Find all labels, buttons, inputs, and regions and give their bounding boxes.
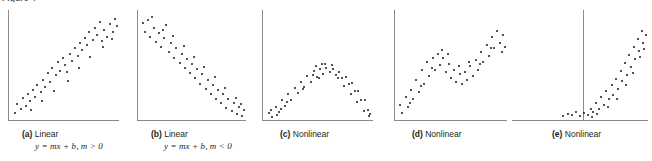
data-point	[225, 107, 227, 109]
scatter-plot-c	[254, 10, 374, 122]
data-point	[325, 67, 327, 69]
data-point	[286, 101, 288, 103]
caption-c: (c) Nonlinear	[280, 129, 329, 141]
scatter-plot-a	[0, 10, 120, 122]
data-point	[318, 77, 320, 79]
data-point	[360, 99, 362, 101]
caption-equation-b: y = mx + b, m < 0	[151, 141, 232, 153]
data-point	[111, 38, 113, 40]
data-point	[224, 87, 226, 89]
data-point	[502, 34, 504, 36]
data-point	[173, 57, 175, 59]
data-point	[426, 61, 428, 63]
caption-tag-b: (b)	[151, 129, 162, 139]
data-point	[168, 51, 170, 53]
data-point	[62, 57, 64, 59]
data-point	[415, 79, 417, 81]
data-point	[624, 62, 626, 64]
data-point	[448, 63, 450, 65]
data-point	[315, 65, 317, 67]
data-point	[42, 79, 44, 81]
data-point	[96, 34, 98, 36]
data-point	[496, 30, 498, 32]
data-point	[595, 102, 597, 104]
caption-title-c: Nonlinear	[293, 129, 329, 139]
caption-equation-a: y = mx + b, m > 0	[22, 141, 103, 153]
data-point	[579, 115, 581, 117]
data-point	[475, 59, 477, 61]
data-point	[348, 83, 350, 85]
data-point	[86, 44, 88, 46]
data-point	[217, 89, 219, 91]
panel-d: (d) Nonlinear	[386, 10, 508, 161]
data-point	[116, 25, 118, 27]
data-point	[147, 19, 149, 21]
data-point	[231, 110, 233, 112]
data-point	[222, 93, 224, 95]
data-point	[189, 72, 191, 74]
data-point	[238, 106, 240, 108]
caption-tag-a: (a)	[22, 129, 32, 139]
data-point	[205, 88, 207, 90]
data-point	[458, 65, 460, 67]
data-point	[447, 53, 449, 55]
data-point	[240, 103, 242, 105]
caption-a: (a) Linear y = mx + b, m > 0	[22, 129, 103, 152]
data-point	[482, 61, 484, 63]
data-point	[67, 80, 69, 82]
data-point	[642, 42, 644, 44]
data-point	[441, 49, 443, 51]
data-point	[66, 71, 68, 73]
data-point	[605, 90, 607, 92]
data-point	[638, 50, 640, 52]
data-point	[77, 55, 79, 57]
data-point	[172, 35, 174, 37]
data-point	[32, 89, 34, 91]
data-point	[322, 73, 324, 75]
data-point	[201, 73, 203, 75]
figure-container: Figure 4 (a) Linear y = mx + b, m > 0 (b…	[0, 0, 652, 161]
data-point	[607, 106, 609, 108]
panel-e: (e) Nonlinear	[512, 10, 652, 161]
y-axis-d	[394, 10, 395, 120]
data-point	[59, 70, 61, 72]
data-point	[335, 74, 337, 76]
data-point	[89, 56, 91, 58]
data-point	[27, 93, 29, 95]
data-point	[596, 113, 598, 115]
data-point	[99, 21, 101, 23]
data-point	[214, 76, 216, 78]
data-point	[468, 61, 470, 63]
data-point	[616, 98, 618, 100]
data-point	[84, 37, 86, 39]
data-point	[464, 71, 466, 73]
data-point	[363, 110, 365, 112]
data-point	[504, 46, 506, 48]
data-point	[442, 57, 444, 59]
data-point	[71, 60, 73, 62]
caption-title-e: Nonlinear	[565, 129, 601, 139]
data-point	[562, 115, 564, 117]
data-point	[630, 66, 632, 68]
y-axis-b	[137, 10, 138, 120]
data-point	[49, 81, 51, 83]
data-point	[645, 34, 647, 36]
data-point	[53, 90, 55, 92]
data-point	[399, 104, 401, 106]
x-axis-d	[394, 120, 507, 121]
data-point	[583, 112, 585, 114]
data-point	[29, 100, 31, 102]
figure-label: Figure 4	[2, 0, 36, 2]
x-axis-e	[512, 120, 648, 121]
panel-a: (a) Linear y = mx + b, m > 0	[0, 10, 120, 161]
data-point	[44, 86, 46, 88]
data-point	[625, 84, 627, 86]
data-point	[55, 74, 57, 76]
data-point	[351, 82, 353, 84]
caption-tag-c: (c)	[280, 129, 290, 139]
data-point	[357, 90, 359, 92]
data-point	[212, 84, 214, 86]
data-point	[420, 85, 422, 87]
data-point	[158, 32, 160, 34]
data-point	[611, 84, 613, 86]
